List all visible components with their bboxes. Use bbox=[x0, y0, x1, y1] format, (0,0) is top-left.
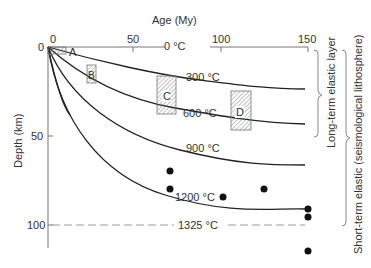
bracket-label-short-term: Short-term elastic (seismological lithos… bbox=[352, 35, 364, 254]
y-axis-label: Depth (km) bbox=[12, 114, 24, 168]
bracket-short-term bbox=[342, 50, 350, 226]
data-point bbox=[167, 186, 174, 193]
isotherm-label-600: 600 °C bbox=[183, 107, 217, 119]
isotherm-label-1325: 1325 °C bbox=[178, 219, 218, 231]
isotherm-steep bbox=[48, 47, 70, 115]
x-tick-label-150: 150 bbox=[298, 33, 316, 45]
box-c-label: C bbox=[163, 90, 171, 102]
box-a bbox=[48, 47, 66, 54]
isotherm-600 bbox=[48, 47, 305, 124]
box-d-label: D bbox=[236, 106, 244, 118]
data-point bbox=[305, 214, 312, 221]
x-axis-label: Age (My) bbox=[152, 14, 197, 26]
y-tick-label-0: 0 bbox=[38, 41, 44, 53]
box-a-label: A bbox=[69, 46, 77, 58]
x-tick-label-50: 50 bbox=[127, 33, 139, 45]
data-point bbox=[261, 186, 268, 193]
bracket-label-long-term: Long-term elastic layer bbox=[325, 36, 337, 148]
isotherm-900 bbox=[48, 47, 305, 165]
x-tick-label-0: 0 bbox=[50, 33, 56, 45]
data-point bbox=[305, 206, 312, 213]
figure: Age (My) 0 50 100 150 0 50 100 Depth (km… bbox=[0, 0, 371, 268]
y-tick-label-100: 100 bbox=[27, 219, 45, 231]
box-b-label: B bbox=[88, 70, 95, 81]
data-point bbox=[167, 168, 174, 175]
x-tick-label-100: 100 bbox=[212, 33, 230, 45]
isotherm-label-0: 0 °C bbox=[164, 40, 186, 52]
isotherm-300 bbox=[48, 47, 305, 89]
isotherm-label-1200: 1200 °C bbox=[175, 191, 215, 203]
isotherm-label-300: 300 °C bbox=[186, 71, 220, 83]
isotherm-label-900: 900 °C bbox=[186, 142, 220, 154]
isotherm-1200 bbox=[48, 47, 305, 209]
y-tick-label-50: 50 bbox=[31, 130, 43, 142]
chart-svg: Age (My) 0 50 100 150 0 50 100 Depth (km… bbox=[0, 0, 371, 268]
data-point bbox=[305, 248, 312, 255]
data-point bbox=[220, 194, 227, 201]
bracket-long-term bbox=[314, 50, 322, 137]
